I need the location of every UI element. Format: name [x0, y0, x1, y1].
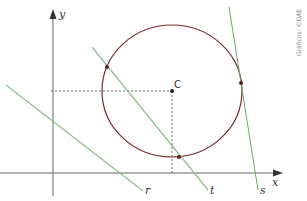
line-s [229, 7, 258, 190]
intersection-point-t-upper [105, 65, 109, 69]
line-s-label: s [260, 184, 266, 197]
center-label: C [174, 79, 181, 90]
line-t [92, 47, 208, 190]
intersection-point-t-lower [177, 155, 181, 159]
line-t-label: t [210, 184, 215, 197]
tangent-point-s [239, 81, 243, 85]
credit-text: Gráficos: ©DAE [295, 9, 302, 56]
y-axis-arrow-icon [50, 9, 57, 19]
x-axis-label: x [272, 176, 279, 189]
y-axis-label: y [58, 8, 66, 21]
diagram-canvas: y x C r t s Gráficos: ©DAE [0, 0, 307, 201]
line-r-label: r [145, 184, 151, 197]
